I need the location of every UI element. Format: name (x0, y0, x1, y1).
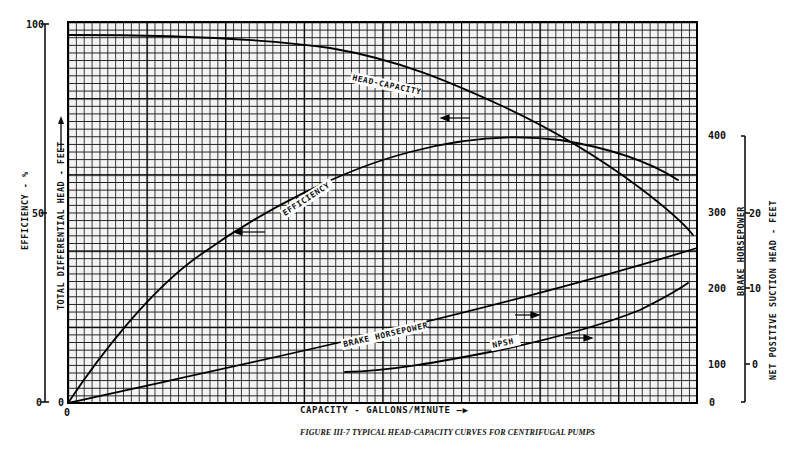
eff-tick-50: 50 (32, 208, 44, 219)
x-axis-label: CAPACITY - GALLONS/MINUTE —▶ (300, 405, 469, 415)
bhp-tick-200: 200 (708, 283, 726, 294)
eff-tick-0: 0 (36, 397, 42, 408)
arrow-up-icon (58, 116, 64, 124)
npsh-tick-10: 10 (749, 283, 761, 294)
efficiency-axis: 100 50 0 EFFICIENCY - % (20, 19, 49, 408)
bhp-tick-0: 0 (709, 397, 715, 408)
npsh-axis: 20 10 0 NET POSITIVE SUCTION HEAD - FEET (741, 136, 778, 402)
x-tick-0: 0 (64, 407, 70, 418)
bhp-tick-400: 400 (708, 130, 726, 141)
eff-tick-100: 100 (26, 19, 44, 30)
pump-curves-chart: 100 50 0 EFFICIENCY - % TOTAL DIFFERENTI… (0, 0, 795, 458)
head-axis-label: TOTAL DIFFERENTIAL HEAD - FEET (56, 141, 66, 310)
bhp-tick-300: 300 (708, 207, 726, 218)
bhp-axis: 400 300 200 100 0 BRAKE HORSEPOWER (708, 130, 746, 408)
npsh-tick-20: 20 (749, 208, 761, 219)
figure-caption: FIGURE III-7 TYPICAL HEAD-CAPACITY CURVE… (300, 428, 595, 437)
npsh-tick-0: 0 (752, 359, 758, 370)
npsh-axis-label: NET POSITIVE SUCTION HEAD - FEET (768, 200, 778, 380)
bhp-tick-100: 100 (708, 359, 726, 370)
efficiency-axis-label: EFFICIENCY - % (20, 171, 30, 250)
